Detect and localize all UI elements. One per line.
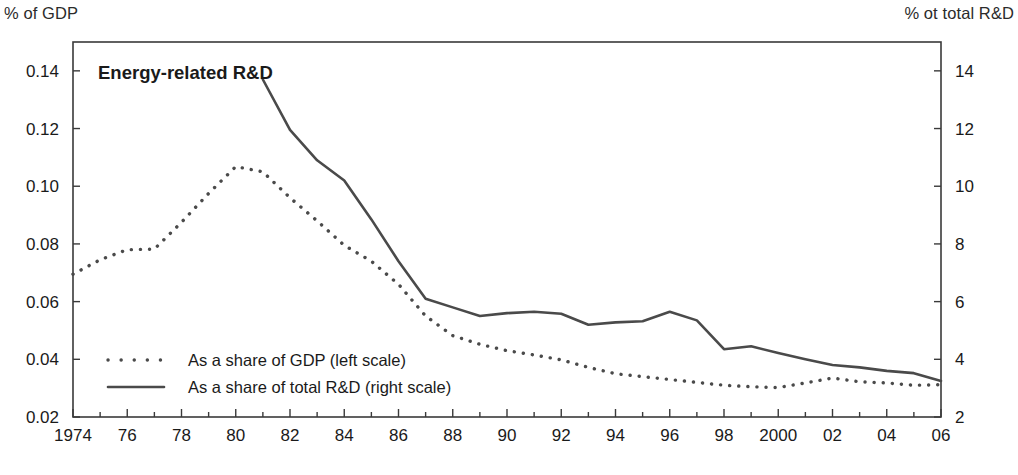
x-axis-tick-label: 94 (606, 426, 625, 445)
right-axis-tick-label: 12 (955, 120, 974, 139)
x-axis-tick-label: 04 (877, 426, 896, 445)
series-line-2 (263, 80, 941, 381)
x-axis-tick-label: 80 (226, 426, 245, 445)
x-axis-tick-label: 90 (498, 426, 517, 445)
left-axis-caption: % of GDP (4, 4, 78, 23)
chart-figure: % of GDP % ot total R&D 0.020.040.060.08… (0, 0, 1018, 475)
left-axis-tick-label: 0.10 (26, 177, 59, 196)
right-axis-tick-label: 4 (955, 350, 964, 369)
energy-rd-line-chart: 0.020.040.060.080.100.120.14 2468101214 … (0, 0, 1018, 475)
x-axis-tick-label: 06 (932, 426, 951, 445)
x-axis: 19747678808284868890929496982000020406 (54, 409, 950, 445)
left-axis-tick-label: 0.12 (26, 120, 59, 139)
x-axis-tick-label: 78 (172, 426, 191, 445)
right-axis-tick-label: 6 (955, 293, 964, 312)
legend-label-2: As a share of total R&D (right scale) (188, 378, 451, 396)
x-axis-tick-label: 2000 (759, 426, 797, 445)
x-axis-tick-label: 92 (552, 426, 571, 445)
x-axis-tick-label: 98 (715, 426, 734, 445)
right-axis-tick-label: 10 (955, 177, 974, 196)
x-axis-tick-label: 76 (118, 426, 137, 445)
x-axis-tick-label: 96 (660, 426, 679, 445)
data-series (73, 80, 941, 388)
right-axis-tick-label: 14 (955, 62, 974, 81)
left-axis-tick-label: 0.06 (26, 293, 59, 312)
left-axis-tick-label: 0.14 (26, 62, 59, 81)
x-axis-tick-label: 86 (389, 426, 408, 445)
left-axis: 0.020.040.060.080.100.120.14 (26, 62, 80, 427)
x-axis-tick-label: 82 (281, 426, 300, 445)
left-axis-tick-label: 0.02 (26, 408, 59, 427)
plot-title: Energy-related R&D (98, 62, 273, 83)
right-axis: 2468101214 (934, 62, 974, 427)
x-axis-tick-label: 84 (335, 426, 354, 445)
legend-label-1: As a share of GDP (left scale) (188, 351, 406, 369)
x-axis-tick-label: 88 (443, 426, 462, 445)
x-axis-tick-label: 02 (823, 426, 842, 445)
left-axis-tick-label: 0.04 (26, 350, 59, 369)
x-axis-tick-label: 1974 (54, 426, 92, 445)
right-axis-caption: % ot total R&D (904, 4, 1014, 23)
right-axis-tick-label: 8 (955, 235, 964, 254)
left-axis-tick-label: 0.08 (26, 235, 59, 254)
chart-legend: As a share of GDP (left scale)As a share… (108, 351, 451, 396)
right-axis-tick-label: 2 (955, 408, 964, 427)
